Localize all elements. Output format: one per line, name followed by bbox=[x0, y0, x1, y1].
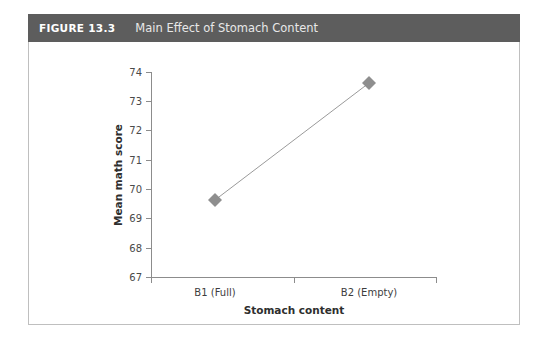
figure-number-label: FIGURE 13.3 bbox=[39, 22, 115, 34]
figure-title-label: Main Effect of Stomach Content bbox=[135, 21, 318, 35]
figure-body-box bbox=[28, 42, 520, 325]
figure-container: FIGURE 13.3 Main Effect of Stomach Conte… bbox=[0, 0, 547, 338]
figure-caption-bar: FIGURE 13.3 Main Effect of Stomach Conte… bbox=[28, 14, 520, 42]
